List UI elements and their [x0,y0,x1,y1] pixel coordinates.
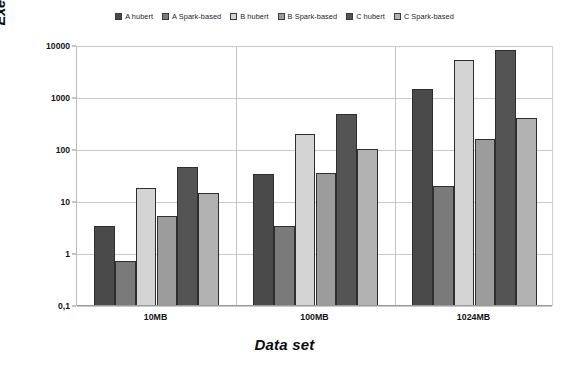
legend-item[interactable]: B Spark-based [278,12,338,21]
chart-figure: A hubertA Spark-basedB hubertB Spark-bas… [0,0,569,379]
y-axis-tick-mark [72,254,76,255]
legend-label: C Spark-based [404,12,454,21]
plot-area [76,46,553,306]
legend-item[interactable]: A hubert [115,12,153,21]
x-axis-tick-label: 100MB [300,312,328,322]
legend-swatch-icon [346,13,353,20]
bar [274,226,295,306]
legend-item[interactable]: C hubert [346,12,385,21]
legend-label: A Spark-based [172,12,221,21]
y-axis-tick-mark [72,202,76,203]
bar [357,149,378,306]
legend-swatch-icon [394,13,401,20]
bar-series-container [77,46,552,306]
bar [495,50,516,306]
bar [198,193,219,306]
legend-item[interactable]: A Spark-based [162,12,221,21]
y-axis-tick-label: 10 [0,197,70,207]
bar [177,167,198,306]
y-axis-tick-label: 100 [0,145,70,155]
bar [94,226,115,306]
legend-label: B hubert [240,12,268,21]
bar [433,186,454,306]
bar [454,60,475,306]
gridline [77,306,552,307]
legend-label: C hubert [356,12,385,21]
legend-item[interactable]: C Spark-based [394,12,454,21]
y-axis-tick-label: 1000 [0,93,70,103]
bar [475,139,496,306]
y-axis-tick-mark [72,98,76,99]
chart-legend: A hubertA Spark-basedB hubertB Spark-bas… [0,12,569,21]
bar [516,118,537,306]
y-axis-tick-mark [72,46,76,47]
y-axis-tick-mark [72,150,76,151]
bar [253,174,274,306]
y-axis-tick-mark [72,306,76,307]
y-axis-title: Execution time - log scale (s) [0,0,8,52]
x-axis-title: Data set [0,336,569,353]
bar [412,89,433,306]
legend-swatch-icon [278,13,285,20]
bar [295,134,316,306]
bar [316,173,337,306]
legend-swatch-icon [115,13,122,20]
bar [157,216,178,306]
x-axis-baseline [77,305,552,306]
y-axis-tick-label: 0,1 [0,301,70,311]
bar [136,188,157,306]
legend-label: A hubert [125,12,153,21]
bar [115,261,136,307]
y-axis-tick-label: 1 [0,249,70,259]
y-axis-tick-label: 10000 [0,41,70,51]
x-axis-tick-label: 10MB [144,312,167,322]
bar [336,114,357,306]
legend-item[interactable]: B hubert [230,12,268,21]
legend-swatch-icon [230,13,237,20]
x-axis-tick-label: 1024MB [457,312,490,322]
legend-swatch-icon [162,13,169,20]
legend-label: B Spark-based [288,12,338,21]
